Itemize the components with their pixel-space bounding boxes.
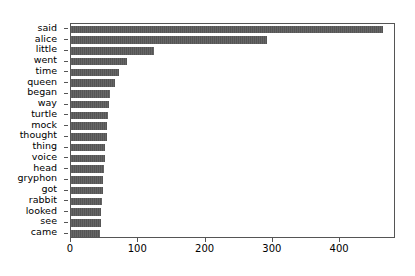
y-tick-mark [64,104,68,105]
bar-alice [71,36,267,44]
y-tick-mark [64,200,68,201]
x-tick-label-200: 200 [195,243,214,254]
y-tick-mark [64,50,68,51]
x-tick-mark [70,238,71,242]
y-tick-mark [64,93,68,94]
x-tick-label-100: 100 [128,243,147,254]
x-tick-label-300: 300 [262,243,281,254]
y-tick-mark [64,190,68,191]
bar-time [71,69,119,77]
bar-looked [71,208,101,216]
bar-got [71,187,103,195]
x-tick-mark [272,238,273,242]
bar-way [71,101,109,109]
bar-see [71,219,101,227]
y-tick-mark [64,157,68,158]
bar-queen [71,79,115,87]
y-tick-mark [64,147,68,148]
bar-went [71,58,127,66]
y-tick-mark [64,71,68,72]
bar-said [71,26,383,34]
bar-thing [71,144,105,152]
y-tick-mark [64,233,68,234]
bar-gryphon [71,176,103,184]
y-tick-label-came: came [31,227,57,238]
y-tick-mark [64,179,68,180]
y-tick-mark [64,211,68,212]
y-tick-mark [64,136,68,137]
bar-mock [71,122,107,130]
plot-area [70,23,395,238]
bar-head [71,165,104,173]
y-tick-mark [64,61,68,62]
x-tick-mark [205,238,206,242]
bar-thought [71,133,107,141]
x-axis: 0100200300400 [0,238,415,276]
bar-chart-figure: saidalicelittlewenttimequeenbeganwayturt… [0,0,415,276]
y-tick-mark [64,39,68,40]
x-tick-mark [137,238,138,242]
x-tick-mark [339,238,340,242]
bar-voice [71,155,105,163]
y-tick-mark [64,82,68,83]
bar-rabbit [71,198,102,206]
x-tick-label-0: 0 [67,243,73,254]
bar-little [71,47,154,55]
bar-came [71,230,100,238]
y-tick-mark [64,114,68,115]
bar-began [71,90,110,98]
y-tick-mark [64,222,68,223]
y-axis-labels: saidalicelittlewenttimequeenbeganwayturt… [0,23,64,238]
y-tick-mark [64,28,68,29]
x-tick-label-400: 400 [330,243,349,254]
y-tick-mark [64,125,68,126]
bar-turtle [71,112,108,120]
y-tick-mark [64,168,68,169]
